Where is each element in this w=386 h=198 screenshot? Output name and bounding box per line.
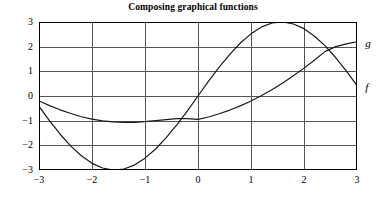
- chart-figure: Composing graphical functions 3210−1−2−3…: [0, 0, 386, 198]
- y-tick-label: 0: [7, 90, 33, 101]
- curve-label-f: f: [365, 81, 368, 93]
- x-tick-label: 0: [185, 174, 211, 185]
- y-tick-label: −1: [7, 115, 33, 126]
- x-tick-label: −2: [79, 174, 105, 185]
- y-tick-label: −2: [7, 139, 33, 150]
- plot-area: [39, 22, 357, 170]
- y-tick-label: 3: [7, 16, 33, 27]
- curve-label-g: g: [365, 37, 371, 49]
- x-tick-label: 2: [291, 174, 317, 185]
- y-tick-label: 2: [7, 41, 33, 52]
- x-tick-label: 3: [344, 174, 370, 185]
- x-tick-label: 1: [238, 174, 264, 185]
- x-tick-label: −3: [26, 174, 52, 185]
- y-tick-label: 1: [7, 65, 33, 76]
- plot-svg: [39, 22, 357, 170]
- page-title: Composing graphical functions: [0, 2, 386, 12]
- x-tick-label: −1: [132, 174, 158, 185]
